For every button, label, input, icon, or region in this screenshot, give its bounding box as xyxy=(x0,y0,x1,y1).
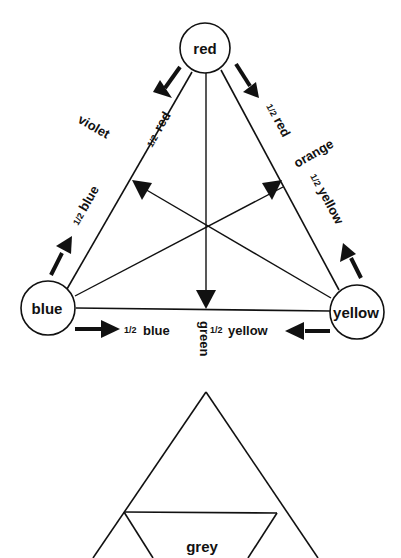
median-lines xyxy=(75,73,331,300)
median-blue-to-orange xyxy=(75,187,283,296)
label-violet: violet xyxy=(76,112,113,142)
edge-blue-yellow xyxy=(76,308,330,311)
label-half-yellow-right: 1/2 yellow xyxy=(307,170,347,227)
lower-horizontal xyxy=(124,512,277,513)
lower-inner-left xyxy=(124,512,153,558)
triangle-edges xyxy=(67,70,339,311)
edge-red-blue xyxy=(67,72,192,289)
label-half-blue-left: 1/2 blue xyxy=(68,183,102,228)
half-blue-label: blue xyxy=(76,183,102,214)
label-half-blue-bottom: 1/2 blue xyxy=(124,323,170,338)
half-blue-label: blue xyxy=(143,323,170,338)
label-half-red-right: 1/2 red xyxy=(263,100,293,139)
fraction-label: 1/2 xyxy=(264,102,279,118)
fraction-label: 1/2 xyxy=(124,325,137,335)
fraction-label: 1/2 xyxy=(145,133,160,149)
arrowhead-violet-icon xyxy=(132,180,152,200)
orange-label: orange xyxy=(291,136,336,171)
label-half-red-left: 1/2 red xyxy=(142,109,174,150)
node-red: red xyxy=(180,23,230,73)
node-yellow: yellow xyxy=(330,285,384,339)
arrow-blue-to-green-icon xyxy=(101,320,120,338)
node-label-yellow: yellow xyxy=(333,304,379,321)
node-blue: blue xyxy=(21,281,75,335)
fraction-label: 1/2 xyxy=(308,172,323,188)
lower-inner-right xyxy=(248,513,277,558)
half-red-label: red xyxy=(151,109,174,134)
label-half-yellow-bottom: 1/2 yellow xyxy=(210,323,269,338)
label-orange: orange xyxy=(291,136,336,171)
color-mixing-diagram: red blue yellow 1/2 red violet 1/2 blue … xyxy=(0,0,401,558)
lower-right-edge xyxy=(206,392,318,558)
violet-label: violet xyxy=(76,112,113,142)
node-label-red: red xyxy=(193,40,216,57)
lower-left-edge xyxy=(93,392,206,558)
label-green: green xyxy=(197,321,212,356)
fraction-label: 1/2 xyxy=(71,211,86,227)
lower-triangle-figure xyxy=(93,392,318,558)
arrow-yellow-to-green-icon xyxy=(285,322,304,340)
grey-label: grey xyxy=(186,538,218,555)
green-label: green xyxy=(197,321,212,356)
half-yellow-label: yellow xyxy=(228,323,269,338)
median-yellow-to-violet xyxy=(138,185,331,298)
node-label-blue: blue xyxy=(32,300,63,317)
arrow-blue-to-violet-icon xyxy=(56,236,72,254)
half-yellow-label: yellow xyxy=(315,184,347,227)
half-red-label: red xyxy=(271,114,294,139)
arrowhead-down-icon xyxy=(196,290,216,309)
